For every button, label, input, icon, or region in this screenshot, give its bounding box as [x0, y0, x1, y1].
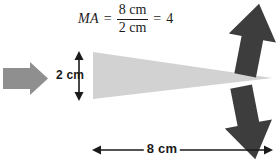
length-dimension-label: 8 cm	[144, 141, 180, 156]
length-dimension-arrow	[0, 0, 279, 164]
wedge-mechanical-advantage-diagram: MA = 8 cm 2 cm = 4 2 cm	[0, 0, 279, 164]
